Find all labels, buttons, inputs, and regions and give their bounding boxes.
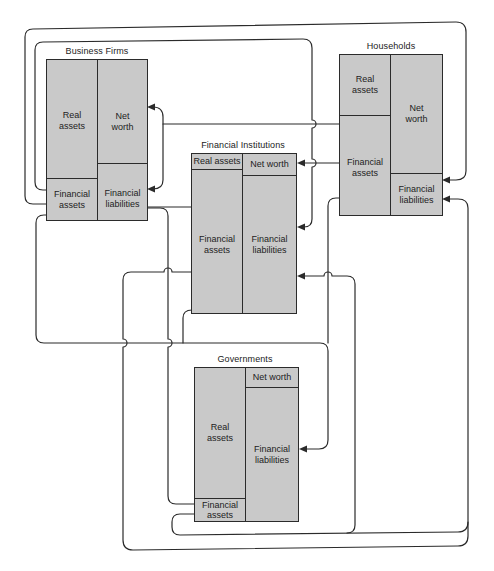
cell-label: Net worth xyxy=(111,111,133,133)
cell-label: Net worth xyxy=(253,372,292,383)
flow-line-hh-fa-to-gov-fl xyxy=(328,198,340,343)
financial-institutions-net-worth: Net worth xyxy=(242,153,297,176)
cell-label: Financial assets xyxy=(202,500,238,520)
households-financial-assets: Financial assets xyxy=(339,115,391,216)
flow-line-gov-fa-to-bf-fl xyxy=(148,208,194,504)
financial-institutions-financial-liabilities: Financial liabilities xyxy=(242,175,297,314)
cell-label: Financial liabilities xyxy=(398,184,434,206)
households-net-worth: Net worth xyxy=(390,54,443,174)
flow-bracket-bf xyxy=(153,107,163,189)
business-firms-real-assets: Real assets xyxy=(46,59,98,179)
arrow-left-icon xyxy=(299,446,307,453)
cell-label: Financial assets xyxy=(54,189,90,211)
arrow-left-icon xyxy=(442,196,450,203)
business-firms-financial-liabilities: Financial liabilities xyxy=(97,163,148,221)
governments-financial-assets: Financial assets xyxy=(194,498,246,522)
arrow-left-icon xyxy=(297,160,305,167)
flow-line-gov-fa-to-fi-fl xyxy=(304,272,355,533)
arrow-left-icon xyxy=(297,273,305,280)
flow-line-fi-fa-to-gov-fl xyxy=(183,310,192,343)
cell-label: Financial liabilities xyxy=(104,188,140,210)
sector-title-governments: Governments xyxy=(217,354,272,364)
households-financial-liabilities: Financial liabilities xyxy=(390,173,443,216)
cell-label: Real assets xyxy=(207,422,233,444)
governments-financial-liabilities: Financial liabilities xyxy=(245,387,299,522)
cell-label: Financial liabilities xyxy=(254,444,290,466)
cell-label: Financial assets xyxy=(347,157,383,179)
financial-institutions-real-assets: Real assets xyxy=(191,153,243,170)
arrow-left-icon xyxy=(297,224,305,231)
business-firms-net-worth: Net worth xyxy=(97,59,148,164)
households-real-assets: Real assets xyxy=(339,54,391,116)
cell-label: Real assets xyxy=(193,156,240,167)
sector-balance-sheet-diagram: Business Firms Real assets Net worth Fin… xyxy=(0,0,494,571)
cell-label: Real assets xyxy=(352,74,378,96)
cell-label: Financial assets xyxy=(199,234,235,256)
business-firms-financial-assets: Financial assets xyxy=(46,178,98,221)
governments-net-worth: Net worth xyxy=(245,367,299,388)
governments-real-assets: Real assets xyxy=(194,367,246,499)
arrow-left-icon xyxy=(147,186,155,193)
sector-title-households: Households xyxy=(367,41,416,51)
sector-title-financial-institutions: Financial Institutions xyxy=(201,140,285,150)
sector-title-business-firms: Business Firms xyxy=(66,46,129,56)
financial-institutions-financial-assets: Financial assets xyxy=(191,169,243,314)
cell-label: Real assets xyxy=(59,110,85,132)
arrow-left-icon xyxy=(442,177,450,184)
cell-label: Net worth xyxy=(250,159,289,170)
cell-label: Net worth xyxy=(405,103,427,125)
arrow-left-icon xyxy=(147,104,155,111)
cell-label: Financial liabilities xyxy=(251,234,287,256)
